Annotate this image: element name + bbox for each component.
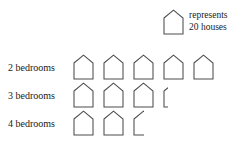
- house-icon-partial-3-bedrooms: [163, 82, 168, 108]
- house-icon-2-bedrooms: [73, 54, 94, 80]
- pictograph-rows: [0, 0, 246, 146]
- pictograph-chart: represents 20 houses 2 bedrooms 3 bedroo…: [0, 0, 246, 146]
- house-icon-3-bedrooms: [103, 82, 124, 108]
- house-icon-2-bedrooms: [103, 54, 124, 80]
- house-icon-2-bedrooms: [193, 54, 214, 80]
- house-icon-2-bedrooms: [133, 54, 154, 80]
- house-icon-partial-4-bedrooms: [133, 110, 144, 136]
- house-icon-3-bedrooms: [73, 82, 94, 108]
- house-icon-4-bedrooms: [73, 110, 94, 136]
- house-icon-3-bedrooms: [133, 82, 154, 108]
- house-icon-4-bedrooms: [103, 110, 124, 136]
- house-icon-2-bedrooms: [163, 54, 184, 80]
